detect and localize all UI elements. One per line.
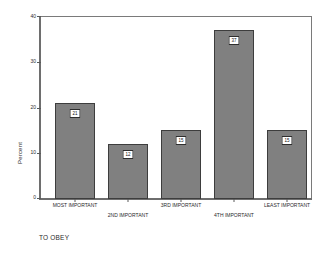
bar-value-label: 15 <box>175 136 186 145</box>
bar-least-important[interactable]: 15 <box>267 130 307 199</box>
bar-slot-most-important: 21 <box>55 16 95 199</box>
bar-3rd-important[interactable]: 15 <box>161 130 201 199</box>
bar-slot-3rd-important: 15 <box>161 16 201 199</box>
bar-chart-figure: Percent 40 30 20 10 0 21 12 15 <box>0 0 323 260</box>
bar-most-important[interactable]: 21 <box>55 103 95 199</box>
chart-caption: TO OBEY <box>39 234 69 242</box>
bar-slot-least-important: 15 <box>267 16 307 199</box>
bar-value-label: 12 <box>122 150 133 159</box>
x-label-2nd-important: 2ND IMPORTANT <box>108 212 148 218</box>
y-tick-label-30: 30 <box>20 59 36 64</box>
bar-value-label: 21 <box>69 109 80 118</box>
x-label-4th-important: 4TH IMPORTANT <box>214 212 254 218</box>
bar-value-label: 37 <box>228 36 239 45</box>
x-label-least-important: LEAST IMPORTANT <box>264 202 310 208</box>
y-tick-label-10: 10 <box>20 150 36 155</box>
y-tick-label-20: 20 <box>20 105 36 110</box>
bar-4th-important[interactable]: 37 <box>214 30 254 199</box>
bar-value-label: 15 <box>281 136 292 145</box>
y-tick-label-40: 40 <box>20 14 36 19</box>
x-label-3rd-important: 3RD IMPORTANT <box>161 202 201 208</box>
bar-slot-4th-important: 37 <box>214 16 254 199</box>
bar-2nd-important[interactable]: 12 <box>108 144 148 199</box>
y-tick-label-0: 0 <box>20 195 36 200</box>
x-label-most-important: MOST IMPORTANT <box>53 202 98 208</box>
bars-layer: 21 12 15 37 15 <box>39 16 312 199</box>
bar-slot-2nd-important: 12 <box>108 16 148 199</box>
x-axis-labels: MOST IMPORTANT 2ND IMPORTANT 3RD IMPORTA… <box>39 200 312 226</box>
